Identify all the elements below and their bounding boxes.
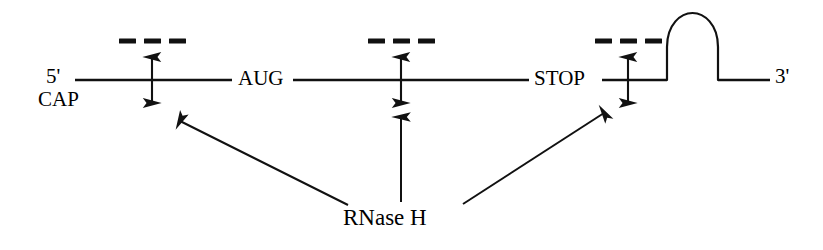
label-stop-codon: STOP [534,68,585,89]
label-3-prime: 3' [775,66,789,87]
rnaseh-pointer-arrows [180,113,604,205]
rnaseh-pointer-left [180,121,348,205]
label-cap: CAP [38,89,79,110]
label-start-codon: AUG [238,68,284,89]
rnase-h-cleavage-diagram: 5' CAP AUG STOP 3' RNase H [0,0,823,250]
label-rnase-h: RNase H [343,206,427,229]
hairpin-stem-loop [667,13,718,80]
rnaseh-pointer-right [463,113,604,204]
label-5-prime: 5' [46,66,60,87]
antisense-oligo-dashes [119,39,662,44]
